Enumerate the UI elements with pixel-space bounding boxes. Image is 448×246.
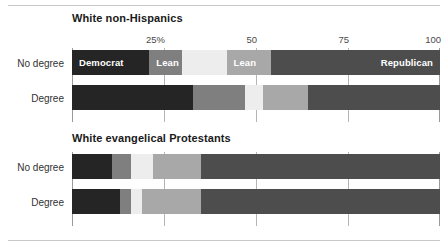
plot-area: DemocratLeanLeanRepublican bbox=[72, 48, 440, 122]
bar-segment-label: Lean bbox=[156, 57, 179, 68]
bar-segment-republican bbox=[201, 154, 440, 179]
bar-segment-independent bbox=[131, 189, 142, 214]
bar-segment-label: Republican bbox=[381, 57, 433, 68]
bar-row bbox=[72, 154, 440, 179]
bar-segment-independent bbox=[182, 50, 226, 75]
bar-segment-lean-dem bbox=[193, 85, 245, 110]
chart-figure: White non-Hispanics 25% 50 75 100 No deg… bbox=[0, 0, 448, 246]
stacked-bar bbox=[72, 189, 440, 214]
bar-segment-lean-dem bbox=[112, 154, 130, 179]
bar-segment-democrat bbox=[72, 85, 193, 110]
bar-segment-lean-rep bbox=[263, 85, 307, 110]
bottom-divider-rule bbox=[8, 240, 440, 241]
bar-row: DemocratLeanLeanRepublican bbox=[72, 50, 440, 75]
bar-segment-republican bbox=[308, 85, 440, 110]
bar-segment-label: Lean bbox=[234, 57, 257, 68]
row-label-no-degree: No degree bbox=[0, 162, 64, 173]
stacked-bar: DemocratLeanLeanRepublican bbox=[72, 50, 440, 75]
stacked-bar bbox=[72, 85, 440, 110]
plot-area bbox=[72, 152, 440, 226]
bar-segment-lean-rep: Lean bbox=[227, 50, 271, 75]
bar-segment-lean-dem: Lean bbox=[149, 50, 182, 75]
x-axis-tick-label: 50 bbox=[246, 34, 257, 45]
bar-segment-lean-rep bbox=[153, 154, 201, 179]
row-label-no-degree: No degree bbox=[0, 58, 64, 69]
bar-segment-independent bbox=[245, 85, 263, 110]
bar-segment-democrat bbox=[72, 154, 112, 179]
bar-segment-republican: Republican bbox=[271, 50, 440, 75]
bar-segment-lean-dem bbox=[120, 189, 131, 214]
bar-row bbox=[72, 85, 440, 110]
bar-row bbox=[72, 189, 440, 214]
panel-title: White evangelical Protestants bbox=[72, 132, 231, 144]
stacked-bar bbox=[72, 154, 440, 179]
x-axis-tick-label: 75 bbox=[338, 34, 349, 45]
x-axis-tick-labels: 25% 50 75 100 bbox=[0, 34, 448, 47]
row-label-degree: Degree bbox=[0, 93, 64, 104]
panel-title: White non-Hispanics bbox=[72, 12, 183, 24]
bar-segment-independent bbox=[131, 154, 153, 179]
bar-segment-republican bbox=[201, 189, 440, 214]
bar-segment-democrat: Democrat bbox=[72, 50, 149, 75]
row-label-degree: Degree bbox=[0, 197, 64, 208]
bar-segment-democrat bbox=[72, 189, 120, 214]
x-axis-tick-label: 100 bbox=[425, 34, 441, 45]
x-axis-tick-label: 25% bbox=[146, 34, 165, 45]
top-divider-rule bbox=[8, 5, 440, 6]
bar-segment-label: Democrat bbox=[79, 57, 124, 68]
bar-segment-lean-rep bbox=[142, 189, 201, 214]
